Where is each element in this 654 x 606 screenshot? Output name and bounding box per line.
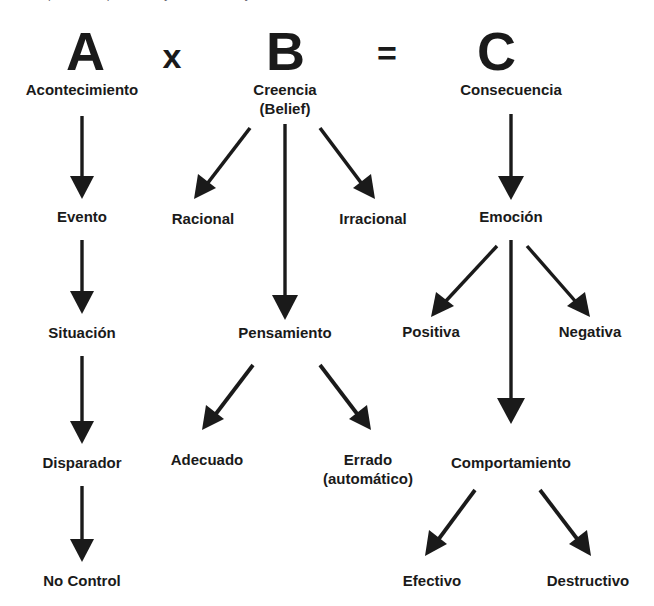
- node-comportamiento: Comportamiento: [451, 454, 571, 471]
- node-errado-line1: Errado: [344, 451, 392, 468]
- arrow-pensamiento-to-errado: [320, 365, 371, 430]
- arrow-consecuencia-to-emocion: [498, 114, 524, 200]
- node-irracional: Irracional: [339, 210, 407, 227]
- abc-diagram: puede ser percibido, y tal como es, y es…: [0, 0, 654, 606]
- header-operator-times: x: [163, 37, 182, 75]
- arrow-emocion-to-comportamiento: [497, 240, 525, 424]
- arrow-pensamiento-to-adecuado: [202, 365, 253, 430]
- header-letter-b: B: [266, 21, 304, 81]
- arrow-situacion-to-disparador: [70, 356, 94, 444]
- arrow-comportamiento-to-efectivo: [425, 490, 475, 556]
- node-errado-line2: (automático): [323, 470, 413, 487]
- arrow-acontecimiento-to-evento: [70, 116, 94, 199]
- arrow-creencia-to-racional: [194, 128, 250, 199]
- header-letter-c: C: [477, 21, 515, 81]
- arrow-emocion-to-positiva: [431, 246, 497, 317]
- node-disparador: Disparador: [42, 454, 121, 471]
- node-destructivo: Destructivo: [547, 572, 630, 589]
- arrow-comportamiento-to-destructivo: [540, 490, 591, 556]
- node-creencia-line2: (Belief): [260, 100, 311, 117]
- arrow-evento-to-situacion: [70, 240, 94, 314]
- header-letter-a: A: [66, 21, 104, 81]
- node-emocion: Emoción: [479, 208, 542, 225]
- node-negativa: Negativa: [559, 323, 622, 340]
- node-evento: Evento: [57, 208, 107, 225]
- node-consecuencia: Consecuencia: [460, 81, 562, 98]
- diagram-canvas: A x B = C Acontecimiento Evento Situació…: [0, 0, 654, 606]
- node-acontecimiento: Acontecimiento: [26, 81, 139, 98]
- node-adecuado: Adecuado: [171, 451, 244, 468]
- arrow-creencia-to-irracional: [320, 128, 375, 199]
- node-situacion: Situación: [48, 324, 116, 341]
- node-racional: Racional: [172, 210, 235, 227]
- node-creencia-line1: Creencia: [253, 81, 317, 98]
- arrow-disparador-to-no-control: [70, 486, 94, 562]
- arrow-emocion-to-negativa: [527, 246, 590, 317]
- node-positiva: Positiva: [402, 323, 460, 340]
- node-efectivo: Efectivo: [403, 572, 461, 589]
- header-operator-equals: =: [377, 34, 397, 72]
- node-no-control: No Control: [43, 572, 120, 589]
- arrow-creencia-to-pensamiento: [272, 124, 298, 320]
- node-pensamiento: Pensamiento: [238, 324, 331, 341]
